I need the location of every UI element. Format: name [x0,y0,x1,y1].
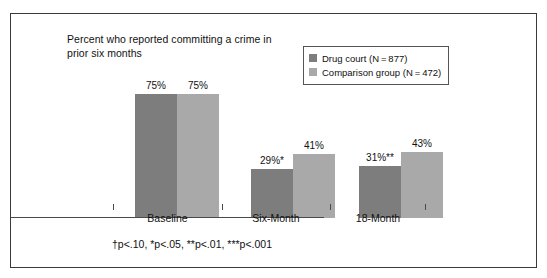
bar-eighteen-month-comparison [401,152,443,218]
bar-value-eighteen-month-comparison: 43% [401,138,443,149]
bar-six-month-drug-court [251,169,293,218]
bar-eighteen-month-drug-court [359,166,401,218]
bar-baseline-drug-court [135,94,177,218]
category-label-baseline: Baseline [113,212,222,225]
axis-tick-1 [222,204,223,210]
axis-tick-right [425,204,426,210]
bar-value-baseline-comparison: 75% [177,80,219,91]
figure-frame: Percent who reported committing a crime … [10,13,537,268]
plot-area: 75% 75% 29%* 41% 31%** 43% [124,44,436,218]
axis-tick-2 [330,204,331,210]
category-label-six-month: Six-Month [222,212,330,225]
category-label-eighteen-month: 18-Month [330,212,426,225]
bar-value-eighteen-month-drug-court: 31%** [353,152,407,163]
bar-six-month-comparison [293,154,335,218]
bar-baseline-comparison [177,94,219,218]
bar-value-baseline-drug-court: 75% [135,80,177,91]
bar-value-six-month-comparison: 41% [293,140,335,151]
significance-footnote: †p<.10, *p<.05, **p<.01, ***p<.001 [112,238,272,251]
bar-value-six-month-drug-court: 29%* [247,155,297,166]
axis-tick-left [113,204,114,210]
